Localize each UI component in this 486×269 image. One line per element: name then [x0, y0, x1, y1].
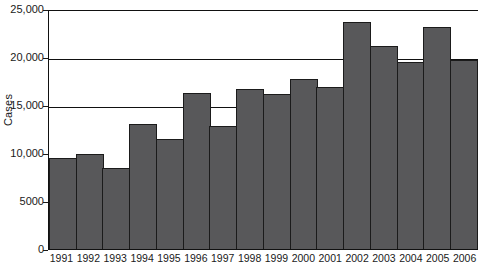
plot-area [48, 10, 478, 250]
bar-2006 [450, 60, 478, 249]
bar-1996 [183, 93, 211, 249]
bars-container [49, 11, 478, 249]
bar-2003 [370, 46, 398, 249]
bar-2001 [316, 87, 344, 249]
bar-1998 [236, 89, 264, 249]
y-tick-label: 5000 [0, 196, 44, 207]
x-tick-label: 2006 [451, 253, 478, 264]
bar-1994 [129, 124, 157, 249]
y-tick-mark [43, 10, 48, 11]
x-tick-label: 2002 [344, 253, 371, 264]
y-tick-label: 10,000 [0, 148, 44, 159]
y-tick-mark [43, 154, 48, 155]
bar-1997 [209, 126, 237, 249]
x-tick-label: 2005 [424, 253, 451, 264]
x-tick-label: 2003 [371, 253, 398, 264]
bar-1999 [263, 94, 291, 249]
x-tick-label: 1999 [263, 253, 290, 264]
x-tick-label: 1998 [236, 253, 263, 264]
y-tick-label: 0 [0, 244, 44, 255]
bar-2002 [343, 22, 371, 249]
x-tick-label: 1995 [156, 253, 183, 264]
bar-1992 [76, 154, 104, 249]
y-tick-mark [43, 202, 48, 203]
y-axis-tick-labels: 0500010,00015,00020,00025,000 [0, 0, 44, 269]
bar-2005 [423, 27, 451, 249]
x-tick-label: 2000 [290, 253, 317, 264]
bar-2004 [397, 62, 425, 249]
x-axis-tick-labels: 1991199219931994199519961997199819992000… [48, 253, 478, 264]
x-tick-label: 1992 [75, 253, 102, 264]
bar-1993 [102, 168, 130, 249]
x-tick-label: 1997 [209, 253, 236, 264]
bar-2000 [290, 79, 318, 249]
y-tick-mark [43, 106, 48, 107]
y-tick-label: 15,000 [0, 100, 44, 111]
bar-1995 [156, 139, 184, 249]
y-tick-label: 20,000 [0, 52, 44, 63]
y-tick-mark [43, 250, 48, 251]
bar-chart: Cases 0500010,00015,00020,00025,000 1991… [0, 0, 486, 269]
x-tick-label: 2001 [317, 253, 344, 264]
x-tick-label: 1994 [129, 253, 156, 264]
x-tick-label: 1996 [182, 253, 209, 264]
x-tick-label: 2004 [397, 253, 424, 264]
x-tick-label: 1991 [48, 253, 75, 264]
y-tick-label: 25,000 [0, 4, 44, 15]
y-tick-mark [43, 58, 48, 59]
x-tick-label: 1993 [102, 253, 129, 264]
bar-1991 [49, 158, 77, 249]
